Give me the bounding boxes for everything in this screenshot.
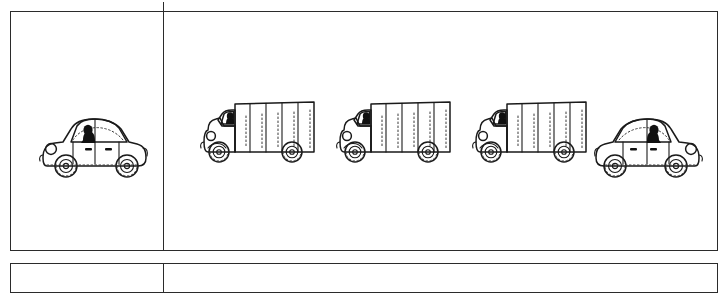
- car-right-facing: [591, 102, 709, 182]
- table-cell-left: [11, 12, 163, 250]
- truck-2: [324, 92, 454, 182]
- table-cell-right: [163, 264, 717, 292]
- table-row: [10, 11, 718, 251]
- table-cell-right: [163, 12, 717, 250]
- truck-1: [188, 92, 318, 182]
- car-left-facing: [33, 102, 151, 182]
- table-cell-left: [11, 264, 163, 292]
- column-divider-tick: [163, 2, 164, 11]
- truck-3: [460, 92, 590, 182]
- table-row: [10, 263, 718, 293]
